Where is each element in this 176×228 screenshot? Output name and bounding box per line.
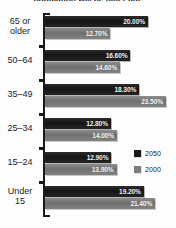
category-label-line1: 15–24 xyxy=(0,157,40,167)
bar-value-label: 14.00% xyxy=(92,130,114,141)
axis-tick xyxy=(39,147,45,150)
bar-2050-4: 12.80% xyxy=(45,118,111,129)
category-label-line2: 15 xyxy=(0,196,40,206)
bar-2050-6: 19.20% xyxy=(45,186,144,197)
bar-value-label: 13.90% xyxy=(92,164,114,175)
legend-label-2000: 2000 xyxy=(145,166,161,173)
bar-2000-6: 21.40% xyxy=(45,198,155,209)
legend-label-2050: 2050 xyxy=(145,150,161,157)
axis-tick xyxy=(39,181,45,184)
category-label-3: 35–49 xyxy=(0,89,40,99)
category-label-line2: older xyxy=(0,26,40,36)
category-label-1: 65 orolder xyxy=(0,16,40,36)
bar-value-label: 19.20% xyxy=(119,186,141,197)
category-label-line1: 50–64 xyxy=(0,55,40,65)
category-label-5: 15–24 xyxy=(0,157,40,167)
category-label-line1: 35–49 xyxy=(0,89,40,99)
bar-2000-3: 23.50% xyxy=(45,96,166,107)
bar-2050-3: 18.30% xyxy=(45,84,139,95)
bar-chart: population will be older age 65 orolder5… xyxy=(0,0,176,228)
bar-value-label: 23.50% xyxy=(141,96,163,107)
legend-swatch-2000-icon xyxy=(134,166,141,173)
bar-2000-2: 14.60% xyxy=(45,62,120,73)
axis-tick xyxy=(39,45,45,48)
bar-value-label: 14.60% xyxy=(95,62,117,73)
bar-value-label: 12.80% xyxy=(86,118,108,129)
category-label-line1: 65 or xyxy=(0,16,40,26)
category-label-6: Under15 xyxy=(0,186,40,206)
chart-title: population will be older age xyxy=(0,0,176,1)
y-axis-top-cap xyxy=(43,13,50,15)
bar-2000-1: 12.70% xyxy=(45,28,110,39)
category-label-line1: Under xyxy=(0,186,40,196)
legend-item-2000: 2000 xyxy=(134,163,161,175)
legend-item-2050: 2050 xyxy=(134,147,161,159)
bar-2000-4: 14.00% xyxy=(45,130,117,141)
bar-value-label: 21.40% xyxy=(130,198,152,209)
bar-value-label: 12.70% xyxy=(86,28,108,39)
legend-swatch-2050-icon xyxy=(134,150,141,157)
bar-2050-5: 12.90% xyxy=(45,152,111,163)
chart-legend: 2050 2000 xyxy=(134,147,161,179)
category-label-line1: 25–34 xyxy=(0,123,40,133)
category-label-4: 25–34 xyxy=(0,123,40,133)
bar-value-label: 18.30% xyxy=(114,84,136,95)
bar-value-label: 16.60% xyxy=(106,50,128,61)
bar-2050-2: 16.60% xyxy=(45,50,130,61)
axis-tick xyxy=(39,79,45,82)
axis-tick xyxy=(39,113,45,116)
bar-value-label: 12.90% xyxy=(87,152,109,163)
bar-2050-1: 20.00% xyxy=(45,16,148,27)
category-label-2: 50–64 xyxy=(0,55,40,65)
bar-value-label: 20.00% xyxy=(123,16,145,27)
bar-2000-5: 13.90% xyxy=(45,164,117,175)
y-axis-bottom-cap xyxy=(43,215,50,217)
